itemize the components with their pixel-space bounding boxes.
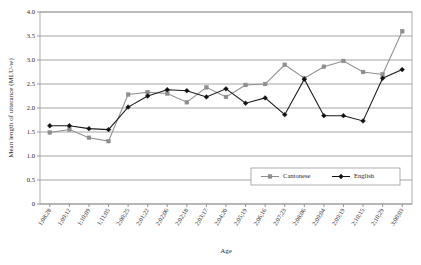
legend-marker-cantonese [268, 175, 272, 179]
data-point-cantonese [126, 93, 130, 97]
x-tick-label: 2;10;29 [369, 207, 385, 227]
data-point-english [204, 95, 209, 100]
x-tick-label: 1;09;12 [56, 207, 72, 227]
x-tick-label: 2;01;22 [134, 207, 150, 227]
data-point-english [361, 119, 366, 124]
y-tick-label: 1.5 [27, 128, 36, 135]
legend-label-cantonese: Cantonese [283, 172, 311, 179]
y-tick-label: 0 [32, 200, 36, 207]
x-tick-label: 2;04;20 [212, 207, 228, 227]
data-point-cantonese [107, 139, 111, 143]
x-tick-label: 2;02;18 [173, 207, 189, 227]
data-point-cantonese [244, 83, 248, 87]
data-point-english [400, 67, 405, 72]
data-point-cantonese [400, 29, 404, 33]
y-tick-label: 2.5 [27, 80, 36, 87]
data-point-english [145, 94, 150, 99]
y-tick-label: 3.0 [27, 56, 36, 63]
data-point-english [87, 126, 92, 131]
y-tick-label: 0.5 [27, 176, 36, 183]
data-point-english [184, 88, 189, 93]
x-tick-label: 2;10;15 [349, 207, 365, 227]
data-point-cantonese [185, 100, 189, 104]
legend-label-english: English [354, 172, 375, 179]
data-point-english [341, 113, 346, 118]
y-tick-label: 4.0 [27, 8, 36, 15]
data-point-cantonese [224, 95, 228, 99]
series-line-english [50, 70, 402, 130]
y-tick-label: 3.5 [27, 32, 36, 39]
data-point-english [165, 87, 170, 92]
x-tick-label: 1;10;09 [75, 207, 91, 227]
data-point-cantonese [283, 63, 287, 67]
data-point-cantonese [48, 131, 52, 135]
data-series-group [47, 29, 404, 143]
y-axis-title: Mean length of utterance (MLU-w) [7, 58, 15, 158]
data-point-english [380, 76, 385, 81]
y-tick-label: 2.0 [27, 104, 36, 111]
x-tick-label: 2;08;06 [291, 207, 307, 227]
y-axis-ticks: 00.51.01.52.02.53.03.54.0 [27, 8, 40, 207]
x-axis-title: Age [220, 247, 232, 255]
data-point-cantonese [263, 82, 267, 86]
x-tick-label: 2;03;17 [193, 207, 209, 227]
data-point-cantonese [361, 70, 365, 74]
x-tick-label: 1;11;05 [95, 207, 111, 227]
x-tick-label: 2;02;06 [154, 207, 170, 227]
x-tick-label: 3;00;03 [389, 207, 405, 227]
data-point-cantonese [205, 85, 209, 89]
mlu-line-chart: 00.51.01.52.02.53.03.54.0 1;08;281;09;12… [0, 0, 421, 265]
data-point-english [67, 123, 72, 128]
x-tick-label: 2;00;25 [114, 207, 130, 227]
chart-legend: CantoneseEnglish [251, 168, 400, 185]
data-point-cantonese [87, 136, 91, 140]
chart-container: 00.51.01.52.02.53.03.54.0 1;08;281;09;12… [0, 0, 421, 265]
data-point-english [47, 123, 52, 128]
x-tick-label: 2;05;19 [232, 207, 248, 227]
x-tick-label: 2;09;19 [330, 207, 346, 227]
x-axis-ticks: 1;08;281;09;121;10;091;11;052;00;252;01;… [36, 204, 412, 227]
x-tick-label: 2;06;16 [252, 207, 268, 227]
x-tick-label: 2;09;04 [310, 207, 326, 227]
y-tick-label: 1.0 [27, 152, 36, 159]
x-tick-label: 1;08;28 [36, 207, 52, 227]
x-tick-label: 2;07;23 [271, 207, 287, 227]
data-point-cantonese [342, 59, 346, 63]
data-point-english [321, 113, 326, 118]
data-point-cantonese [322, 65, 326, 69]
